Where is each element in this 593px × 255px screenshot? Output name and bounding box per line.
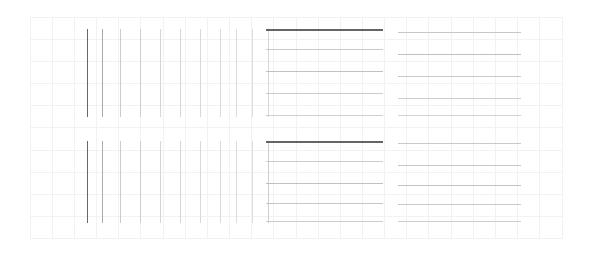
horizontal-rule-4 — [398, 221, 521, 222]
lower-band-horizontal-rule-group-b — [30, 17, 563, 239]
screenshot-canvas: Spreadsheet Grid Sheet Faint spreadsheet… — [0, 0, 593, 255]
horizontal-rule-3 — [398, 204, 521, 205]
horizontal-rule-2 — [398, 185, 521, 186]
horizontal-rule-1 — [398, 165, 521, 166]
lower-band — [30, 17, 563, 239]
horizontal-rule-0 — [398, 143, 521, 144]
spreadsheet-sheet[interactable] — [30, 17, 563, 239]
